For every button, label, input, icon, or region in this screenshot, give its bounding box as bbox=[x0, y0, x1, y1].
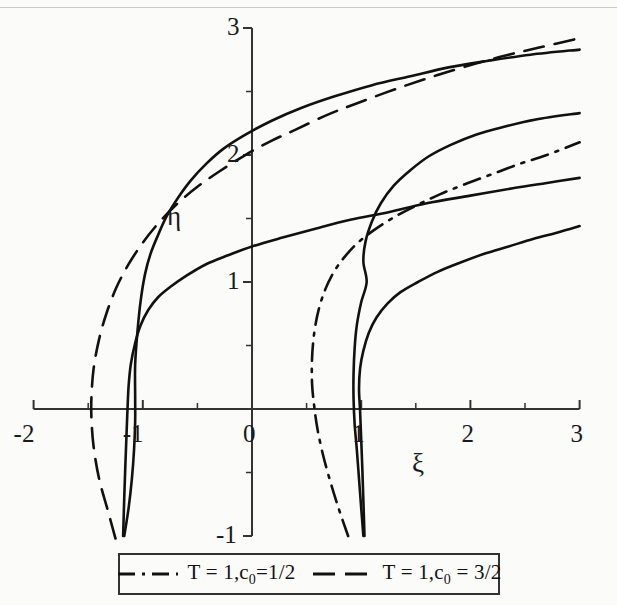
legend-entry-1: T = 1,c0 = 3/2 bbox=[312, 560, 502, 588]
legend-label-0-sub: 0 bbox=[249, 572, 256, 587]
legend-label-1-head: T = 1,c bbox=[383, 560, 444, 584]
curve-series-3 bbox=[312, 142, 580, 536]
x-tick-label-0: 0 bbox=[243, 421, 256, 446]
plot-canvas bbox=[0, 0, 617, 605]
x-tick-label-neg1: -1 bbox=[123, 421, 144, 446]
legend-label-1-sub: 0 bbox=[444, 572, 451, 587]
legend-label-0-head: T = 1,c bbox=[188, 560, 249, 584]
y-tick-label-3: 3 bbox=[227, 14, 240, 39]
y-tick-label-neg1: -1 bbox=[216, 522, 237, 547]
curve-series-2 bbox=[123, 178, 579, 536]
legend: T = 1,c0=1/2 T = 1,c0 = 3/2 bbox=[118, 553, 500, 595]
y-tick-label-2: 2 bbox=[227, 141, 240, 166]
curve-series-5 bbox=[359, 226, 580, 536]
legend-label-0-tail: =1/2 bbox=[256, 560, 295, 584]
x-axis-name: ξ bbox=[412, 450, 424, 477]
curve-series-1 bbox=[124, 50, 579, 536]
legend-entry-0: T = 1,c0=1/2 bbox=[117, 560, 296, 588]
legend-label-1: T = 1,c0 = 3/2 bbox=[383, 560, 502, 588]
y-tick-label-1: 1 bbox=[227, 268, 240, 293]
legend-swatch-dash-dot-icon bbox=[117, 567, 179, 581]
curve-series-4 bbox=[353, 113, 579, 536]
x-tick-label-2: 2 bbox=[461, 421, 474, 446]
legend-label-1-tail: = 3/2 bbox=[451, 560, 501, 584]
x-tick-label-1: 1 bbox=[352, 421, 365, 446]
curve-series-0 bbox=[91, 38, 579, 538]
curves-group bbox=[91, 38, 579, 538]
x-tick-label-3: 3 bbox=[571, 421, 584, 446]
axes-group bbox=[34, 28, 580, 536]
legend-label-0: T = 1,c0=1/2 bbox=[188, 560, 296, 588]
legend-swatch-dash-icon bbox=[312, 567, 374, 581]
figure-container: -2-10123-1123 η ξ T = 1,c0=1/2 T = 1,c0 … bbox=[0, 0, 617, 605]
y-axis-name: η bbox=[167, 203, 181, 230]
x-tick-label-neg2: -2 bbox=[14, 421, 35, 446]
